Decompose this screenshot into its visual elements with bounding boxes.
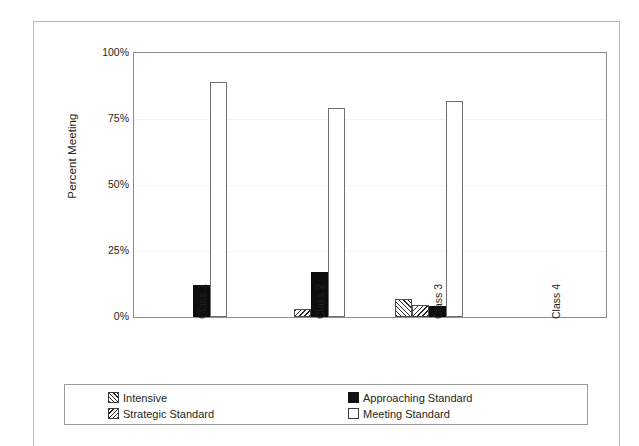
x-tick-label: Class 3 [432,257,444,319]
y-tick-label: 100% [85,46,129,58]
x-axis-tick-labels: Class 1Class 2Class 3Class 4 [133,319,607,381]
y-tick-label: 25% [85,244,129,256]
legend-item: Approaching Standard [348,390,578,405]
bar-group [134,53,252,317]
chart-page: Percent Meeting 100%75%50%25%0% Class 1C… [0,0,639,446]
legend-items: IntensiveApproaching StandardStrategic S… [108,390,578,421]
bar [210,82,227,317]
chart-legend: IntensiveApproaching StandardStrategic S… [64,384,588,425]
x-tick-label: Class 2 [314,257,326,319]
x-tick-label: Class 4 [550,257,562,319]
bar-group [370,53,488,317]
outline-white-swatch [348,408,359,419]
legend-item: Strategic Standard [108,406,338,421]
y-axis-title: Percent Meeting [66,76,78,236]
bar [412,305,429,317]
bar-group [488,53,606,317]
legend-item-label: Intensive [123,392,167,404]
x-tick-label: Class 1 [196,257,208,319]
legend-item-label: Meeting Standard [363,408,450,420]
bar-chart-figure: Percent Meeting 100%75%50%25%0% Class 1C… [0,0,639,446]
bar-group [252,53,370,317]
hatch-forwardslash-swatch [108,408,119,419]
bar [328,108,345,317]
hatch-backslash-swatch [108,392,119,403]
bar [395,299,412,317]
y-tick-label: 0% [85,310,129,322]
solid-black-swatch [348,392,359,403]
legend-item-label: Strategic Standard [123,408,214,420]
bar [294,309,311,317]
legend-item: Intensive [108,390,338,405]
y-axis-tick-labels: 100%75%50%25%0% [85,52,129,318]
legend-item-label: Approaching Standard [363,392,472,404]
y-tick-label: 75% [85,112,129,124]
legend-item: Meeting Standard [348,406,578,421]
y-tick-label: 50% [85,178,129,190]
bar [446,101,463,317]
